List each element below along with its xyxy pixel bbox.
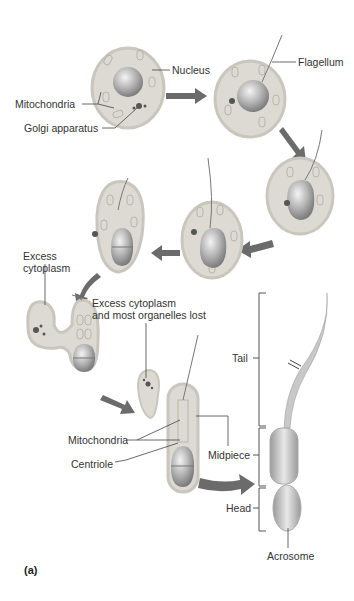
spermatid-stage-4 [182,158,242,278]
label-nucleus: Nucleus [172,64,210,76]
label-flagellum: Flagellum [298,56,344,68]
spermatid-stage-6 [28,295,98,372]
spermiogenesis-diagram [0,0,354,601]
arrow-1 [166,88,207,104]
label-mitochondria-bottom: Mitochondria [68,434,128,446]
spermatid-stage-7 [168,335,198,492]
residual-body [138,370,159,418]
spermatid-stage-2 [215,35,285,137]
mature-sperm [270,293,327,548]
arrow-6 [100,395,135,414]
label-organelles-lost-line2: and most organelles lost [92,309,206,321]
arrow-7 [198,474,255,495]
label-excess-cytoplasm-line2: cytoplasm [23,262,70,274]
label-midpiece: Midpiece [208,449,250,461]
label-centriole: Centriole [71,458,113,470]
panel-label: (a) [24,564,37,576]
label-mitochondria-top: Mitochondria [15,98,75,110]
spermatid-stage-5 [92,178,143,272]
scale-brackets [253,293,266,531]
spermatid-stage-3 [267,130,333,234]
label-golgi-apparatus: Golgi apparatus [24,122,98,134]
label-acrosome: Acrosome [267,550,314,562]
label-organelles-lost-line1: Excess cytoplasm [92,297,176,309]
arrow-4 [151,245,180,261]
label-excess-cytoplasm-line1: Excess [23,250,57,262]
label-tail: Tail [232,352,248,364]
label-head: Head [226,502,251,514]
